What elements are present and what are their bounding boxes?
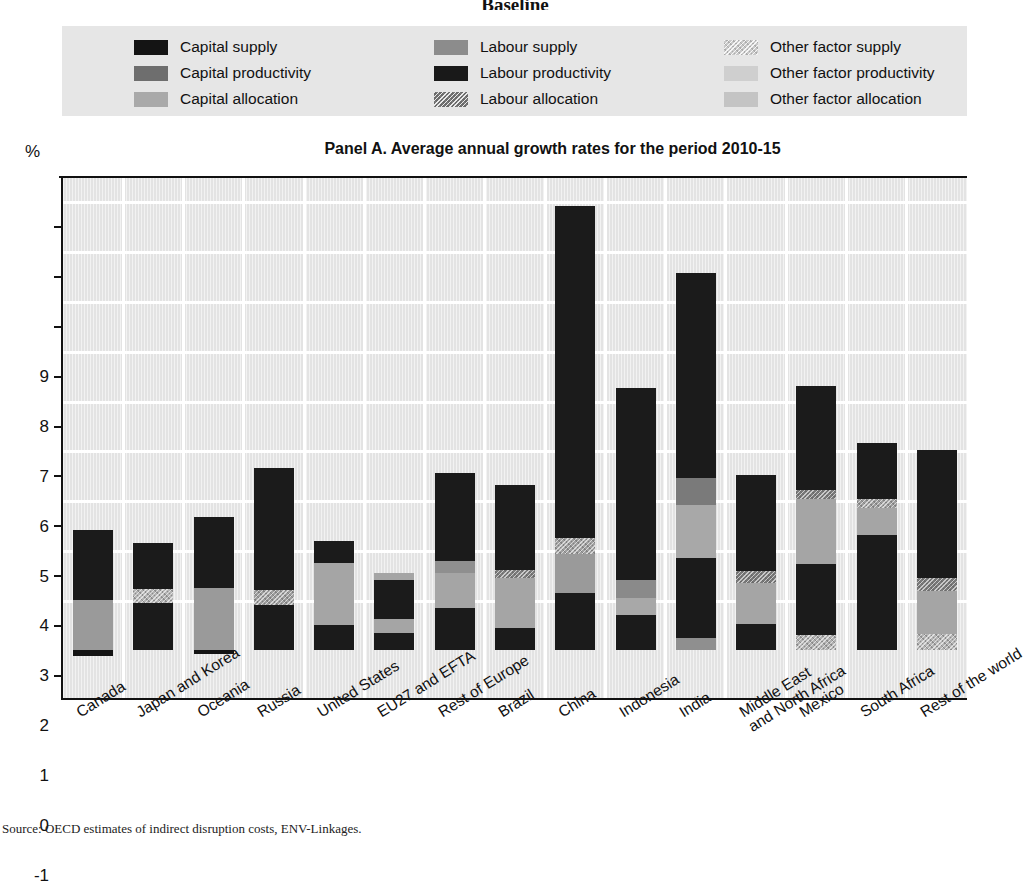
bar-segment xyxy=(796,635,836,650)
vertical-gridline xyxy=(544,176,547,700)
bar-5 xyxy=(314,176,354,700)
bar-12 xyxy=(736,176,776,700)
bar-segment xyxy=(73,530,113,600)
bar-15 xyxy=(917,176,957,700)
bar-segment xyxy=(676,273,716,478)
y-axis-tick-mark xyxy=(54,625,62,627)
bar-segment xyxy=(133,543,173,589)
legend-swatch-icon xyxy=(134,92,168,107)
bar-segment xyxy=(194,588,234,650)
vertical-gridline xyxy=(363,176,366,700)
legend-item: Capital productivity xyxy=(134,64,434,82)
bar-segment xyxy=(676,638,716,650)
y-axis-tick-label: 4 xyxy=(40,616,49,636)
y-axis-tick-label: -1 xyxy=(34,866,49,885)
bar-segment xyxy=(435,608,475,650)
bar-segment xyxy=(495,628,535,650)
legend-item: Labour allocation xyxy=(434,90,724,108)
bar-6 xyxy=(374,176,414,700)
vertical-gridline xyxy=(483,176,486,700)
bar-segment xyxy=(555,538,595,554)
y-axis-tick-mark xyxy=(54,376,62,378)
legend-item: Other factor allocation xyxy=(724,90,1030,108)
bar-segment xyxy=(736,475,776,571)
legend-item-label: Labour productivity xyxy=(480,64,611,82)
bar-segment xyxy=(254,605,294,650)
vertical-gridline xyxy=(182,176,185,700)
bar-segment xyxy=(616,388,656,580)
zero-baseline xyxy=(59,176,967,178)
y-axis-tick-mark xyxy=(54,675,62,677)
x-axis-category-labels: CanadaJapan and KoreaOceaniaRussiaUnited… xyxy=(63,700,967,830)
legend-item-label: Other factor productivity xyxy=(770,64,935,82)
legend-item-label: Capital allocation xyxy=(180,90,298,108)
legend-item-label: Other factor allocation xyxy=(770,90,922,108)
bar-segment xyxy=(917,634,957,650)
vertical-gridline xyxy=(845,176,848,700)
bar-segment xyxy=(314,541,354,562)
y-axis-tick-label: 3 xyxy=(40,666,49,686)
legend-grid: Capital supplyLabour supplyOther factor … xyxy=(62,34,967,112)
legend-swatch-icon xyxy=(434,92,468,107)
bar-segment xyxy=(857,443,897,499)
bar-segment xyxy=(254,468,294,590)
y-axis-tick-label: 8 xyxy=(40,417,49,437)
bar-2 xyxy=(133,176,173,700)
bar-segment xyxy=(917,591,957,633)
vertical-gridline xyxy=(604,176,607,700)
y-axis-tick-mark xyxy=(54,326,62,328)
bar-segment xyxy=(495,578,535,628)
bar-segment xyxy=(857,508,897,535)
bar-3 xyxy=(194,176,234,700)
y-axis-tick-mark xyxy=(54,426,62,428)
bar-segment xyxy=(73,650,113,656)
legend-item: Other factor supply xyxy=(724,38,1030,56)
y-axis-tick-mark xyxy=(54,276,62,278)
bar-8 xyxy=(495,176,535,700)
y-axis-tick-label: 5 xyxy=(40,567,49,587)
legend-swatch-icon xyxy=(724,92,758,107)
y-axis-tick-mark xyxy=(54,575,62,577)
y-axis-tick-label: 6 xyxy=(40,517,49,537)
bar-segment xyxy=(736,571,776,582)
bar-segment xyxy=(736,624,776,650)
bar-segment xyxy=(435,561,475,572)
y-axis-tick-label: 7 xyxy=(40,467,49,487)
bar-segment xyxy=(555,554,595,593)
y-axis-tick-label: 9 xyxy=(40,367,49,387)
bar-10 xyxy=(616,176,656,700)
y-axis-tick-mark xyxy=(54,525,62,527)
bar-14 xyxy=(857,176,897,700)
y-axis-tick-label: 1 xyxy=(40,766,49,786)
vertical-gridline xyxy=(303,176,306,700)
chart-legend: Capital supplyLabour supplyOther factor … xyxy=(62,26,967,116)
bar-segment xyxy=(555,593,595,650)
bar-segment xyxy=(796,490,836,499)
bar-segment xyxy=(796,386,836,491)
y-axis-tick-label: 2 xyxy=(40,716,49,736)
bar-segment xyxy=(133,603,173,650)
legend-swatch-icon xyxy=(134,66,168,81)
vertical-gridline xyxy=(242,176,245,700)
legend-item-label: Capital supply xyxy=(180,38,277,56)
bar-segment xyxy=(374,573,414,580)
bar-segment xyxy=(73,600,113,650)
legend-swatch-icon xyxy=(134,40,168,55)
y-axis-tick-labels: 9876543210-1 xyxy=(0,176,63,700)
bar-segment xyxy=(254,590,294,605)
vertical-gridline xyxy=(664,176,667,700)
legend-item: Labour supply xyxy=(434,38,724,56)
bar-13 xyxy=(796,176,836,700)
bar-segment xyxy=(676,558,716,638)
bar-segment xyxy=(796,564,836,635)
bar-segment xyxy=(314,563,354,625)
bar-1 xyxy=(73,176,113,700)
bar-segment xyxy=(616,615,656,650)
chart-plot-area xyxy=(63,176,967,700)
bar-segment xyxy=(917,450,957,577)
bar-segment xyxy=(194,517,234,588)
bar-segment xyxy=(495,570,535,577)
bar-11 xyxy=(676,176,716,700)
bar-segment xyxy=(736,583,776,624)
legend-item: Capital supply xyxy=(134,38,434,56)
